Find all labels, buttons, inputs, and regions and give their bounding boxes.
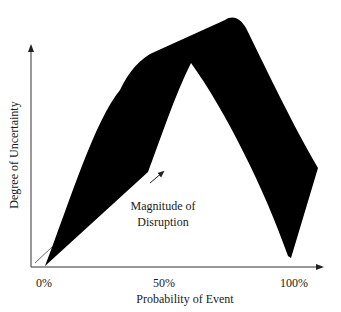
x-tick-0: 0% [36,276,52,290]
x-axis-label: Probability of Event [136,292,233,306]
y-axis-label: Degree of Uncertainty [7,101,21,208]
uncertainty-diagram [0,0,341,312]
magnitude-pointer-arrow [150,172,163,183]
magnitude-annotation: Magnitude of Disruption [131,198,196,230]
magnitude-annotation-line2: Disruption [131,214,196,230]
magnitude-annotation-line1: Magnitude of [131,198,196,214]
x-tick-50: 50% [153,276,175,290]
x-tick-100: 100% [280,276,308,290]
